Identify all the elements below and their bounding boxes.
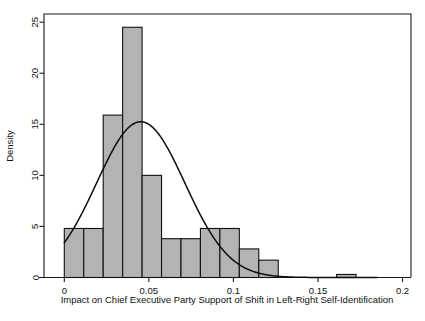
histogram-bar — [181, 239, 200, 278]
histogram-bar — [220, 228, 239, 277]
y-axis-title: Density — [4, 130, 15, 162]
histogram-bar — [142, 175, 161, 277]
histogram-bar — [239, 249, 258, 278]
histogram-bar — [200, 228, 219, 277]
x-axis-title: Impact on Chief Executive Party Support … — [61, 294, 394, 305]
histogram-bar — [84, 228, 103, 277]
y-tick-label: 25 — [30, 17, 41, 28]
histogram-figure: 00.050.10.150.2 Impact on Chief Executiv… — [0, 0, 425, 321]
density-histogram-chart: 00.050.10.150.2 Impact on Chief Executiv… — [0, 0, 425, 321]
histogram-bar — [64, 228, 83, 277]
y-tick-label: 15 — [30, 119, 41, 130]
y-tick-label: 0 — [30, 275, 41, 280]
y-tick-label: 5 — [30, 224, 41, 229]
y-tick-label: 10 — [30, 170, 41, 181]
histogram-bar — [162, 239, 181, 278]
x-tick-label: 0.2 — [396, 285, 409, 296]
y-tick-label: 20 — [30, 68, 41, 79]
histogram-bar — [123, 27, 142, 277]
